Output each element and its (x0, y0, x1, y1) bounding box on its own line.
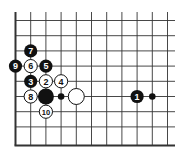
stone-label: 10 (42, 108, 50, 117)
stone-label: 4 (59, 77, 64, 87)
stone-label: 2 (43, 77, 48, 87)
stone-label: 6 (28, 61, 33, 71)
stone-label: 7 (28, 46, 33, 56)
marker-dot (149, 93, 156, 100)
stone-black-7: 7 (24, 44, 37, 57)
stone-white-6: 6 (24, 60, 37, 73)
go-board: 12345678910 (0, 0, 184, 156)
stone-black-5: 5 (39, 60, 52, 73)
stone-label: 8 (28, 92, 33, 102)
stone-black-3: 3 (24, 75, 37, 88)
stone-white-existing (68, 89, 84, 105)
marker-dot (58, 93, 65, 100)
stone-black-existing (38, 89, 54, 105)
stone-white-8: 8 (24, 90, 37, 103)
stone-disc (38, 89, 54, 105)
stone-label: 9 (13, 61, 18, 71)
stone-black-1: 1 (131, 90, 144, 103)
grid-lines (15, 12, 176, 146)
stone-black-9: 9 (9, 60, 22, 73)
stone-white-10: 10 (39, 105, 52, 118)
stone-label: 3 (28, 77, 33, 87)
stone-disc (68, 89, 84, 105)
stone-label: 5 (43, 61, 48, 71)
stone-label: 1 (135, 92, 140, 102)
stone-white-2: 2 (39, 75, 52, 88)
stone-white-4: 4 (55, 75, 68, 88)
